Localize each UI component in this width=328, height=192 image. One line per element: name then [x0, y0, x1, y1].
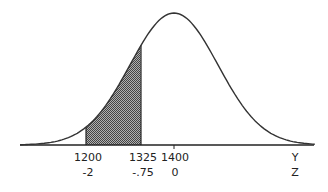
tick-label-z-neg2: -2 — [83, 167, 94, 179]
axis-label-z: Z — [291, 167, 299, 179]
tick-label-y-1400: 1400 — [161, 152, 189, 164]
tick-label-y-1200: 1200 — [74, 152, 102, 164]
tick-label-z-0: 0 — [172, 167, 179, 179]
normal-curve — [20, 13, 315, 145]
axis-label-y: Y — [292, 152, 299, 164]
tick-label-y-1325: 1325 — [129, 152, 157, 164]
tick-label-z-neg075: -.75 — [132, 167, 153, 179]
